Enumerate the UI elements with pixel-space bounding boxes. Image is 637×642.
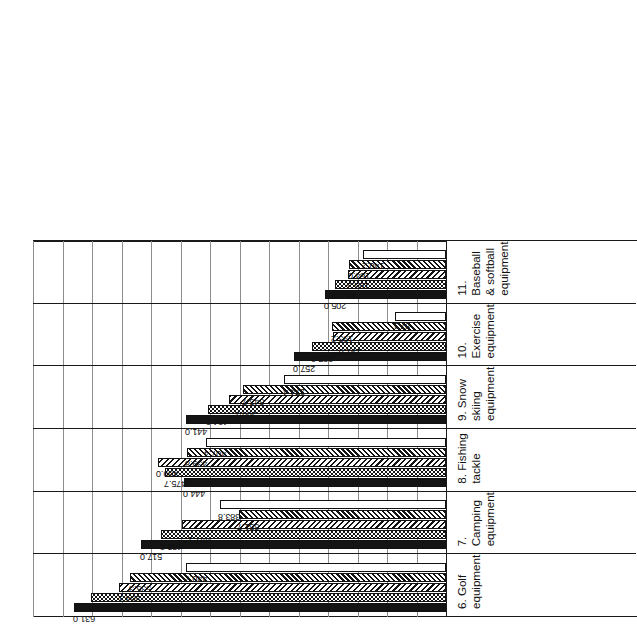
bar-value-label-wrap: 351.7: [216, 526, 238, 535]
category-label-text: 8. Fishing tackle: [455, 429, 483, 484]
bar-value-label-wrap: 165.3: [325, 285, 347, 294]
category-label-text: 11. Baseball & softball equipment: [455, 241, 512, 296]
bar-value-label-wrap: 439.8: [164, 463, 186, 472]
bar-groups: 631.0600.9554.1535.3440.7517.0483.2447.1…: [33, 241, 446, 617]
bar: 274.4: [284, 375, 446, 384]
category-label-text: 7. Camping equipment: [455, 492, 497, 547]
category-label: 10. Exercise equipment: [447, 304, 637, 367]
bar-value-label-wrap: 600.9: [68, 609, 90, 618]
bar-value-label: 274.4: [283, 386, 305, 395]
bar-value-label: 351.7: [238, 521, 260, 530]
bar-value-label-wrap: 164.0: [326, 275, 348, 284]
bar: 87.1: [395, 312, 446, 321]
bar-value-label-wrap: 274.4: [261, 391, 283, 400]
bar-value-label: 475.7: [164, 479, 186, 488]
bar-value-label-wrap: 440.7: [163, 579, 185, 588]
bar-value-label: 407.4: [205, 449, 227, 458]
category-label-text: 9. Snow skiing equipment: [455, 366, 497, 421]
bar-value-label-wrap: 140.2: [340, 265, 362, 274]
category-label: 8. Fishing tackle: [447, 429, 637, 492]
bar-value-label-wrap: 631.0: [51, 619, 73, 628]
bar-value-label: 193.2: [331, 333, 353, 342]
category-label: 11. Baseball & softball equipment: [447, 241, 637, 304]
plot-area: 631.0600.9554.1535.3440.7517.0483.2447.1…: [33, 241, 446, 617]
bar-group: 631.0600.9554.1535.3440.7: [33, 554, 446, 617]
bar: 631.0: [74, 603, 446, 612]
bar-value-label: 87.1: [394, 321, 411, 330]
bar: 351.7: [239, 510, 447, 519]
bar-group: 205.0187.6165.3164.0140.2: [33, 241, 446, 304]
bar-value-label-wrap: 517.0: [118, 556, 140, 565]
category-label: 7. Camping equipment: [447, 492, 637, 555]
category-label: 9. Snow skiing equipment: [447, 366, 637, 429]
bar-value-label: 444.0: [183, 489, 205, 498]
category-label: 6. Golf equipment: [447, 554, 637, 617]
bar-value-label-wrap: 368.1**: [199, 414, 228, 423]
bar: 440.7: [186, 563, 446, 572]
bar-value-label-wrap: 489.0: [135, 473, 157, 482]
category-label-text: 6. Golf equipment: [455, 554, 483, 609]
bar: 444.0: [184, 478, 446, 487]
bar-value-label-wrap: 535.3: [107, 589, 129, 598]
bar: 140.2: [363, 250, 446, 259]
bar-group: 444.0475.7489.0439.8407.4: [33, 429, 446, 492]
bar-value-label: 368.1**: [228, 409, 257, 418]
bar-value-label: 535.3: [129, 584, 151, 593]
bar-value-label: 447.1**: [181, 535, 210, 544]
bar-value-label-wrap: 447.1**: [152, 539, 181, 548]
bar-value-label-wrap: 343.7: [220, 401, 242, 410]
bar-value-label-wrap: 193.2: [309, 338, 331, 347]
bar-group: 257.0227.0191.8**193.287.1: [33, 304, 446, 367]
bar-value-label-wrap: 187.6: [312, 295, 334, 304]
bar-value-label: 140.2: [362, 261, 384, 270]
bar: 475.7: [165, 468, 446, 477]
bar: 600.9: [91, 593, 446, 602]
bar-value-label: 383.8: [219, 511, 241, 520]
bar-group: 441.0404.2368.1**343.7274.4: [33, 366, 446, 429]
bar-value-label-wrap: 475.7: [142, 483, 164, 492]
bar-value-label-wrap: 191.8**: [303, 351, 332, 360]
bar-value-label-wrap: 87.1: [377, 325, 394, 334]
bar: 383.8: [220, 500, 446, 509]
bar: 407.4: [206, 438, 446, 447]
category-label-text: 10. Exercise equipment: [455, 304, 497, 359]
category-label-band: 6. Golf equipment7. Camping equipment8. …: [447, 241, 637, 617]
bar-value-label: 165.3: [347, 281, 369, 290]
bar-group: 517.0483.2447.1**351.7383.8: [33, 492, 446, 555]
bar-value-label: 440.7: [185, 574, 207, 583]
bar-value-label-wrap: 554.1: [96, 599, 118, 608]
bar-value-label-wrap: 205.0: [302, 305, 324, 314]
bar-value-label: 191.8**: [332, 347, 361, 356]
bar-value-label-wrap: 383.8: [197, 516, 219, 525]
bar-value-label-wrap: 257.0: [271, 368, 293, 377]
bar-value-label-wrap: 444.0: [161, 493, 183, 502]
bar-value-label-wrap: 407.4: [183, 453, 205, 462]
bar-value-label-wrap: 441.0: [163, 431, 185, 440]
